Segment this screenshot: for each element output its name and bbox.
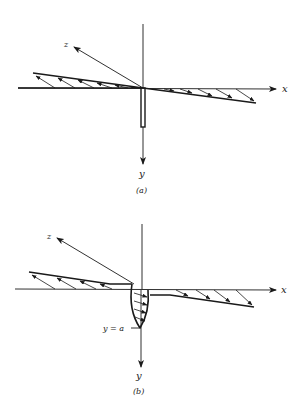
- y-axis-label-a: y: [138, 168, 145, 179]
- stress-arrows-right-a: [164, 89, 254, 101]
- stress-curve-y-b: [131, 284, 148, 328]
- z-axis-a: [74, 47, 143, 88]
- stress-triangle-right-a: [143, 88, 256, 103]
- x-axis-b: [15, 289, 276, 290]
- figure-canvas: x z y (a) x z: [0, 0, 302, 400]
- rod-a: [141, 88, 145, 127]
- panel-b: x z y y = a (b): [15, 224, 287, 396]
- z-axis-label-a: z: [63, 40, 69, 49]
- depth-label-b: y = a: [102, 324, 124, 333]
- x-axis-label-a: x: [282, 83, 288, 94]
- stress-triangle-right-b: [150, 295, 254, 307]
- y-axis-label-b: y: [135, 370, 142, 381]
- stress-triangle-left-a: [18, 73, 143, 88]
- caption-a: (a): [136, 186, 147, 195]
- panel-a: x z y (a): [18, 24, 288, 195]
- stress-arrows-left-a: [36, 76, 128, 88]
- z-axis-label-b: z: [46, 232, 52, 241]
- caption-b: (b): [133, 387, 144, 396]
- x-axis-label-b: x: [281, 284, 287, 295]
